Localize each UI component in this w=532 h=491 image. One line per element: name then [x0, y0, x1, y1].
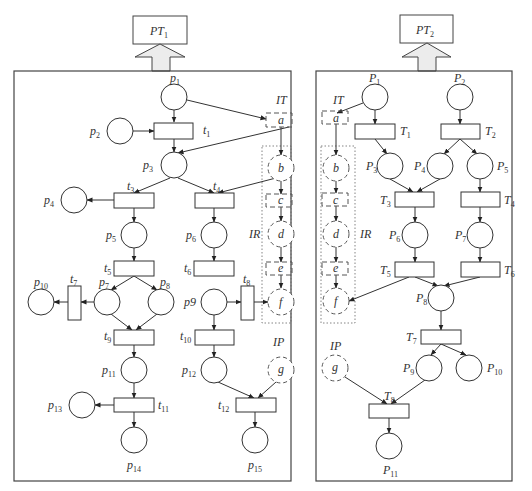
- left-it-label: IT: [275, 93, 288, 107]
- right-ir-label: IR: [359, 227, 372, 241]
- transition-t4: [195, 193, 234, 208]
- pt2-header: PT2: [400, 15, 453, 71]
- svg-text:p8: p8: [159, 275, 170, 291]
- svg-text:p13: p13: [47, 398, 62, 414]
- svg-text:g: g: [278, 362, 284, 376]
- place-p8: [148, 289, 174, 315]
- svg-text:T4: T4: [504, 193, 515, 209]
- svg-text:T1: T1: [400, 124, 411, 140]
- right-panel: PT2: [316, 15, 515, 481]
- svg-text:c: c: [333, 193, 339, 207]
- place-p13: [69, 392, 95, 418]
- place-p3: [161, 152, 187, 178]
- svg-text:p10: p10: [33, 275, 48, 291]
- svg-text:t4: t4: [213, 179, 220, 195]
- place-P8: [428, 285, 454, 311]
- transition-T1: [355, 124, 395, 139]
- left-ir-label: IR: [248, 227, 261, 241]
- svg-text:t9: t9: [104, 329, 111, 345]
- svg-text:p15: p15: [247, 458, 262, 474]
- right-ip-label: IP: [329, 339, 342, 353]
- place-P2: [447, 84, 473, 110]
- place-p4: [61, 187, 87, 213]
- place-P4: [427, 153, 453, 179]
- place-P1: [362, 84, 388, 110]
- svg-text:p1: p1: [169, 71, 180, 87]
- place-P6: [402, 222, 428, 248]
- svg-text:t6: t6: [184, 261, 191, 277]
- svg-text:t8: t8: [243, 272, 250, 288]
- svg-text:t12: t12: [218, 398, 229, 414]
- svg-text:d: d: [333, 227, 340, 241]
- transition-t9: [114, 330, 154, 345]
- svg-text:t7: t7: [70, 272, 77, 288]
- petri-net-diagram: PT1: [0, 0, 532, 491]
- svg-text:P1: P1: [368, 71, 380, 87]
- svg-text:e: e: [333, 261, 339, 275]
- svg-text:T8: T8: [384, 389, 395, 405]
- transition-t3: [114, 193, 154, 208]
- svg-text:T3: T3: [380, 193, 391, 209]
- svg-text:P6: P6: [388, 228, 400, 244]
- svg-text:T7: T7: [406, 330, 417, 346]
- svg-text:p12: p12: [181, 363, 196, 379]
- svg-text:t5: t5: [104, 261, 111, 277]
- left-ip-label: IP: [272, 335, 285, 349]
- place-P10: [456, 355, 482, 381]
- transition-t6: [194, 261, 234, 276]
- transition-T4: [461, 192, 500, 207]
- transition-t10: [195, 330, 234, 345]
- svg-text:a: a: [278, 113, 284, 127]
- place-p15: [242, 427, 268, 453]
- svg-text:P3: P3: [365, 159, 377, 175]
- svg-text:t1: t1: [203, 123, 210, 139]
- svg-text:T6: T6: [504, 263, 515, 279]
- svg-text:P10: P10: [486, 361, 502, 377]
- transition-t8: [241, 286, 254, 320]
- svg-text:P7: P7: [454, 228, 466, 244]
- pt1-up-arrow-icon: [135, 44, 185, 71]
- place-P9: [416, 355, 442, 381]
- svg-text:t3: t3: [127, 179, 134, 195]
- svg-text:P5: P5: [496, 159, 508, 175]
- place-P11: [376, 433, 402, 459]
- place-P5: [467, 153, 493, 179]
- svg-text:p3: p3: [142, 158, 153, 174]
- svg-text:p2: p2: [89, 124, 100, 140]
- place-p10: [28, 289, 54, 315]
- place-p14: [121, 427, 147, 453]
- place-p6: [201, 222, 227, 248]
- svg-text:e: e: [278, 261, 284, 275]
- transition-T2: [441, 124, 480, 139]
- place-p7: [94, 289, 120, 315]
- svg-text:t10: t10: [180, 329, 191, 345]
- place-P3: [377, 153, 403, 179]
- transition-t12: [236, 398, 276, 412]
- transition-t11: [114, 398, 154, 412]
- transition-T5: [395, 262, 434, 277]
- transition-T6: [461, 262, 500, 277]
- svg-text:d: d: [278, 227, 285, 241]
- left-panel: PT1: [14, 16, 294, 481]
- svg-text:b: b: [278, 161, 284, 175]
- transition-t7: [68, 286, 81, 320]
- svg-text:p11: p11: [101, 363, 116, 379]
- place-p9: [201, 289, 227, 315]
- place-p11: [121, 357, 147, 383]
- svg-text:p9: p9: [183, 295, 196, 309]
- svg-text:p4: p4: [43, 193, 54, 209]
- svg-text:p6: p6: [185, 228, 196, 244]
- svg-text:P8: P8: [415, 291, 427, 307]
- transition-t5: [114, 261, 154, 276]
- pt2-up-arrow-icon: [402, 43, 451, 71]
- transition-T8: [369, 404, 409, 418]
- svg-text:g: g: [332, 360, 338, 374]
- svg-text:T2: T2: [485, 124, 496, 140]
- transition-T7: [421, 330, 461, 344]
- place-p2: [107, 118, 133, 144]
- svg-text:P11: P11: [382, 463, 398, 479]
- svg-text:P2: P2: [453, 71, 465, 87]
- svg-text:P4: P4: [413, 159, 425, 175]
- pt1-header: PT1: [133, 16, 187, 71]
- svg-text:t11: t11: [158, 398, 169, 414]
